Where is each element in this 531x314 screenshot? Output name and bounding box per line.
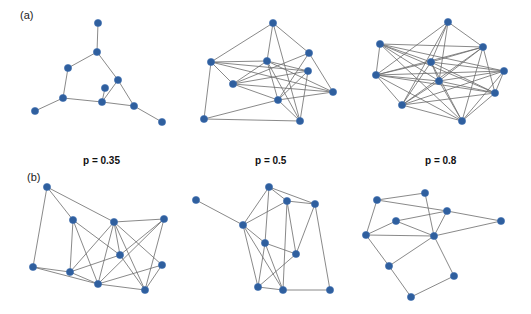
- panel-label-a: (a): [20, 9, 33, 21]
- graph-node: [98, 98, 105, 105]
- graph-node: [279, 286, 286, 293]
- panel-label-b: (b): [27, 171, 40, 183]
- graph-node: [491, 89, 498, 96]
- graph-node: [261, 239, 268, 246]
- graph-edge: [439, 81, 495, 93]
- graph-b-p05-nodes: [192, 183, 333, 293]
- graph-node: [376, 40, 383, 47]
- graph-edge: [211, 62, 233, 84]
- graph-edge: [411, 276, 454, 297]
- graph-edge: [434, 236, 454, 276]
- graph-edge: [265, 243, 283, 290]
- graph-edge: [376, 75, 402, 105]
- probability-label-05: p = 0.5: [255, 155, 286, 166]
- graph-node: [101, 84, 108, 91]
- graph-edge: [434, 211, 447, 236]
- graph-edge: [120, 219, 164, 255]
- graph-node: [158, 261, 165, 268]
- graph-node: [130, 102, 137, 109]
- graph-edge: [33, 267, 70, 272]
- graph-node: [427, 58, 434, 65]
- graph-edge: [283, 201, 287, 290]
- graph-node: [263, 57, 270, 64]
- graph-edge: [211, 61, 267, 62]
- graph-node: [421, 189, 428, 196]
- graph-edge: [33, 187, 47, 267]
- graph-edge: [243, 187, 269, 225]
- graph-edge: [315, 204, 330, 290]
- graph-edge: [63, 68, 68, 98]
- graph-a-p05-edges: [204, 23, 333, 121]
- probability-label-08: p = 0.8: [425, 155, 456, 166]
- graph-node: [385, 262, 392, 269]
- graph-edge: [196, 200, 243, 225]
- graph-edge: [68, 52, 97, 68]
- graph-edge: [389, 266, 411, 297]
- graph-edge: [296, 204, 315, 254]
- graph-edge: [204, 119, 300, 121]
- graph-b-p035-edges: [33, 187, 164, 290]
- graph-node: [329, 88, 336, 95]
- graph-edge: [118, 80, 134, 106]
- graph-edge: [366, 221, 396, 235]
- graph-edge: [233, 84, 278, 100]
- graph-node: [254, 283, 261, 290]
- graph-node: [64, 64, 71, 71]
- graph-edge: [273, 23, 309, 53]
- graph-node: [450, 272, 457, 279]
- graph-node: [443, 207, 450, 214]
- graph-node: [479, 43, 486, 50]
- graph-edge: [380, 44, 483, 47]
- graph-a-p08-edges: [376, 22, 504, 121]
- graph-edge: [396, 211, 447, 221]
- graph-node: [116, 251, 123, 258]
- graph-edge: [434, 221, 501, 236]
- graph-edge: [265, 243, 296, 254]
- graph-node: [497, 217, 504, 224]
- graph-edge: [462, 93, 495, 121]
- graph-edge: [267, 61, 308, 71]
- graph-node: [283, 197, 290, 204]
- graph-node: [392, 217, 399, 224]
- graph-edge: [273, 23, 300, 121]
- graph-edge: [380, 44, 431, 62]
- graph-node: [305, 49, 312, 56]
- graph-node: [110, 218, 117, 225]
- graph-edge: [47, 187, 114, 222]
- graph-edge: [267, 61, 278, 100]
- graph-edge: [120, 255, 145, 290]
- graph-node: [94, 280, 101, 287]
- graph-node: [373, 196, 380, 203]
- graph-node: [229, 80, 236, 87]
- graph-edge: [448, 22, 483, 47]
- graph-edge: [47, 187, 73, 220]
- graph-edge: [267, 23, 273, 61]
- graph-node: [29, 263, 36, 270]
- graph-edge: [35, 98, 63, 111]
- graph-a-p035-nodes: [31, 19, 165, 125]
- graph-edge: [211, 23, 273, 62]
- graph-node: [372, 71, 379, 78]
- graph-node: [435, 77, 442, 84]
- graph-edge: [98, 284, 145, 290]
- graph-node: [311, 200, 318, 207]
- graph-node: [362, 231, 369, 238]
- graph-node: [500, 67, 507, 74]
- graph-edge: [97, 23, 98, 52]
- graph-edge: [243, 201, 287, 225]
- graph-b-p08-edges: [366, 193, 501, 297]
- graph-node: [141, 286, 148, 293]
- graph-node: [265, 183, 272, 190]
- graph-b-p08-nodes: [362, 189, 504, 300]
- graph-edge: [145, 265, 162, 290]
- graph-edge: [134, 106, 162, 122]
- graph-edge: [102, 102, 134, 106]
- graph-node: [207, 58, 214, 65]
- graph-edge: [376, 44, 380, 75]
- graph-edge: [287, 201, 296, 254]
- graph-edge: [145, 219, 164, 290]
- graph-node: [93, 48, 100, 55]
- graph-a-p035-edges: [35, 23, 162, 122]
- graph-node: [296, 117, 303, 124]
- graph-node: [274, 96, 281, 103]
